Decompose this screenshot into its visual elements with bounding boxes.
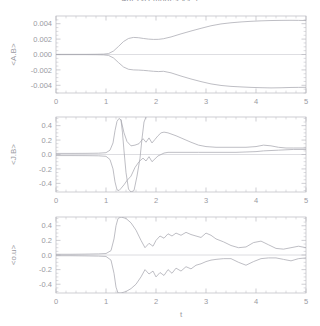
xtick-label-3-3: 3 [204, 297, 208, 306]
xtick-label-2-0: 0 [54, 196, 58, 205]
ylabel-panel-1: <A.B> [9, 43, 18, 66]
xtick-label-3-0: 0 [54, 297, 58, 306]
ytick-label-2-3: 0.2 [42, 136, 52, 145]
ytick-label-2-4: 0.4 [42, 121, 52, 130]
xtick-label-2-3: 3 [204, 196, 208, 205]
xtick-label-2-4: 4 [254, 196, 258, 205]
xtick-label-2-1: 1 [104, 196, 108, 205]
series-2-lower-branch [56, 149, 306, 190]
xtick-label-3-5: 5 [304, 297, 308, 306]
series-2-upper-branch [56, 118, 306, 153]
series-3-upper-branch [56, 217, 306, 254]
ytick-label-3-1: -0.2 [39, 265, 52, 274]
ytick-label-3-2: 0.0 [42, 251, 52, 260]
ytick-label-2-0: -0.4 [39, 179, 52, 188]
xtick-label-1-1: 1 [104, 97, 108, 106]
ytick-label-3-4: 0.4 [42, 221, 52, 230]
xtick-label-2-5: 5 [304, 196, 308, 205]
ytick-label-1-3: 0.002 [33, 35, 52, 44]
ytick-label-1-4: 0.004 [33, 19, 52, 28]
figure-title: 4pi 2-D modes vs. t [0, 0, 320, 1]
ytick-label-1-1: -0.002 [31, 66, 52, 75]
xtick-label-3-4: 4 [254, 297, 258, 306]
ytick-label-2-2: 0.0 [42, 150, 52, 159]
series-1-upper-branch [56, 20, 306, 54]
series-3-lower-branch [56, 256, 306, 293]
ytick-label-2-1: -0.2 [39, 165, 52, 174]
ytick-label-3-0: -0.4 [39, 280, 52, 289]
ylabel-panel-3: <o.u> [9, 244, 18, 265]
series-1-lower-branch [56, 55, 306, 88]
ytick-label-3-3: 0.2 [42, 236, 52, 245]
ylabel-panel-2: <J.B> [9, 144, 18, 165]
xtick-label-3-2: 2 [154, 297, 158, 306]
xtick-label-1-3: 3 [204, 97, 208, 106]
ytick-label-1-0: -0.004 [31, 81, 52, 90]
xtick-label-2-2: 2 [154, 196, 158, 205]
xlabel-panel-3: t [180, 310, 183, 319]
xtick-label-3-1: 1 [104, 297, 108, 306]
xtick-label-1-2: 2 [154, 97, 158, 106]
xtick-label-1-0: 0 [54, 97, 58, 106]
plot-canvas: 012345-0.004-0.0020.0000.0020.004<A.B>01… [0, 0, 320, 326]
ytick-label-1-2: 0.000 [33, 50, 52, 59]
xtick-label-1-4: 4 [254, 97, 258, 106]
xtick-label-1-5: 5 [304, 97, 308, 106]
figure-root: 4pi 2-D modes vs. t 012345-0.004-0.0020.… [0, 0, 320, 326]
